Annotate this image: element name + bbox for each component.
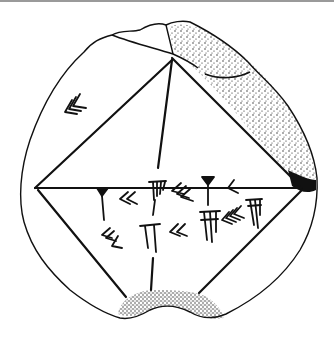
tablet-outline <box>21 21 318 318</box>
winkel-hook-twenty-b <box>170 224 187 236</box>
stipple-damage-upper-right <box>170 24 316 192</box>
stipple-damage-bottom <box>118 290 224 319</box>
wedge-one-b <box>202 177 214 205</box>
wedge-six-b <box>246 199 262 228</box>
wedge-six <box>200 211 220 242</box>
wedge-two <box>140 224 160 252</box>
winkel-hook-thirty-b <box>102 228 122 248</box>
winkel-hook-forty <box>222 206 244 224</box>
winkel-hook-group <box>65 94 86 114</box>
wedge-one <box>97 188 108 220</box>
winkel-hook-ten <box>228 180 238 193</box>
winkel-hook-twenty <box>120 192 137 204</box>
tablet-drawing <box>0 0 334 347</box>
wedge-four <box>149 181 166 215</box>
winkel-hook-thirty <box>172 183 193 201</box>
